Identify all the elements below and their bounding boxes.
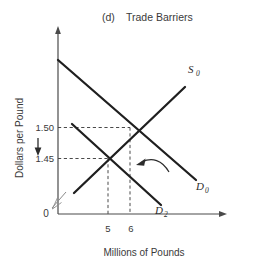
demand-shift-arrow-icon [136, 159, 169, 172]
origin-label: 0 [43, 208, 49, 219]
trade-barriers-figure: (d) Trade Barriers Dollars per Pound Mil… [0, 0, 255, 273]
x-axis-arrowhead [219, 211, 227, 217]
demand-curve-d2-label-group: D 2 [154, 204, 168, 219]
chart-canvas: (d) Trade Barriers Dollars per Pound Mil… [0, 0, 255, 273]
y-axis-arrowhead [55, 26, 61, 34]
demand-curve-d2-label: D [154, 204, 163, 216]
y-tick-label-150: 1.50 [36, 122, 55, 133]
demand-curve-d0-label-group: D 0 [195, 180, 209, 195]
demand-curve-d2 [72, 124, 161, 205]
figure-title: Trade Barriers [126, 11, 193, 23]
supply-curve-label: S [188, 63, 194, 75]
demand-curve-d0 [58, 60, 196, 180]
supply-curve-subscript: 0 [196, 69, 200, 78]
panel-letter-label: (d) [102, 11, 115, 23]
supply-curve-label-group: S 0 [188, 63, 200, 78]
demand-curve-d0-subscript: 0 [205, 186, 209, 195]
x-tick-label-6: 6 [128, 223, 133, 234]
demand-curve-d2-subscript: 2 [164, 210, 168, 219]
demand-curve-d0-label: D [195, 180, 204, 192]
x-tick-label-5: 5 [105, 223, 110, 234]
x-axis-title: Millions of Pounds [103, 247, 184, 258]
y-axis-title: Dollars per Pound [14, 98, 25, 178]
